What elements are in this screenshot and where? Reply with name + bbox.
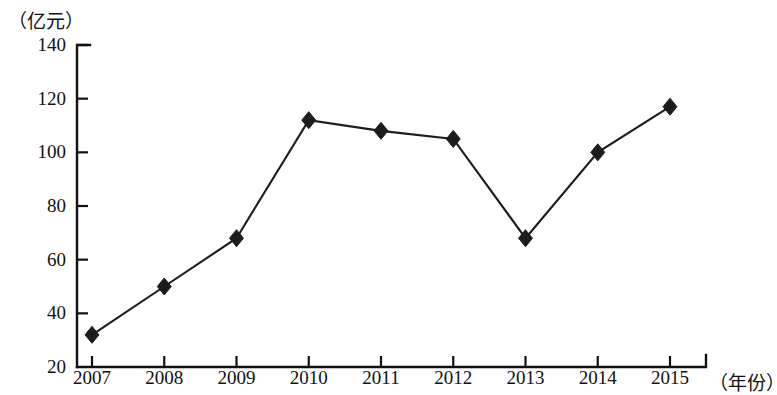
data-point-marker <box>374 122 388 139</box>
data-series-line <box>92 107 670 335</box>
data-point-marker <box>230 230 244 247</box>
data-point-marker <box>157 278 171 295</box>
data-point-markers <box>85 98 677 343</box>
y-axis-ticks <box>77 45 88 313</box>
data-point-marker <box>302 112 316 129</box>
data-point-marker <box>85 326 99 343</box>
x-axis-ticks <box>92 356 670 367</box>
x-axis-line <box>77 355 706 367</box>
data-point-marker <box>663 98 677 115</box>
